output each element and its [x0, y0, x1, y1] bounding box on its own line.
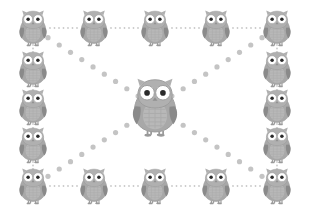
owl-glyph: [77, 167, 111, 205]
edge-dot: [189, 27, 191, 29]
edge-perimeter: [110, 185, 139, 187]
owl-network-diagram: [0, 0, 309, 214]
owl-top-2[interactable]: [138, 9, 172, 47]
edge-dot: [133, 185, 135, 187]
edge-dot: [180, 27, 182, 29]
owl-glyph: [16, 88, 50, 126]
edge-dot: [124, 27, 126, 29]
edge-perimeter: [110, 27, 139, 29]
owl-glyph: [16, 126, 50, 164]
edge-dot: [237, 50, 242, 55]
edge-dot: [226, 152, 231, 157]
edge-dot: [57, 166, 62, 171]
edge-dot: [250, 185, 252, 187]
edge-dot: [67, 185, 69, 187]
edge-dot: [54, 27, 56, 29]
edge-dot: [255, 185, 257, 187]
edge-dot: [115, 185, 117, 187]
owl-top-left[interactable]: [16, 9, 50, 47]
edge-dot: [133, 27, 135, 29]
owl-right-2[interactable]: [260, 88, 294, 126]
edge-dot: [246, 185, 248, 187]
edge-dot: [192, 130, 197, 135]
owl-glyph: [16, 50, 50, 88]
owl-left-3[interactable]: [16, 126, 50, 164]
owl-top-right[interactable]: [260, 9, 294, 47]
edge-perimeter: [232, 27, 261, 29]
edge-dot: [119, 185, 121, 187]
edge-dot: [248, 166, 253, 171]
edge-dot: [113, 79, 118, 84]
edge-dot: [63, 27, 65, 29]
edge-dot: [194, 185, 196, 187]
edge-dot: [237, 27, 239, 29]
edge-dot: [68, 50, 73, 55]
edge-dot: [79, 57, 84, 62]
edge-dot: [192, 79, 197, 84]
owl-glyph: [138, 9, 172, 47]
edge-dot: [185, 27, 187, 29]
edge-dot: [255, 27, 257, 29]
owl-bottom-2[interactable]: [138, 167, 172, 205]
owl-glyph: [127, 76, 182, 138]
edge-dot: [203, 72, 208, 77]
owl-bottom-right[interactable]: [260, 167, 294, 205]
edge-dot: [115, 27, 117, 29]
owl-glyph: [138, 167, 172, 205]
edge-dot: [246, 27, 248, 29]
edge-dot: [250, 27, 252, 29]
edge-dot: [58, 185, 60, 187]
owl-glyph: [16, 167, 50, 205]
edge-perimeter: [171, 27, 200, 29]
owl-left-1[interactable]: [16, 50, 50, 88]
edge-dot: [63, 185, 65, 187]
edge-dot: [124, 185, 126, 187]
owl-right-1[interactable]: [260, 50, 294, 88]
owl-left-2[interactable]: [16, 88, 50, 126]
owl-top-1[interactable]: [77, 9, 111, 47]
owl-glyph: [260, 9, 294, 47]
edge-dot: [180, 185, 182, 187]
owl-bottom-3[interactable]: [199, 167, 233, 205]
owl-glyph: [199, 167, 233, 205]
owl-glyph: [260, 126, 294, 164]
edge-dot: [241, 185, 243, 187]
owl-right-3[interactable]: [260, 126, 294, 164]
edge-dot: [237, 185, 239, 187]
edge-dot: [67, 27, 69, 29]
edge-dot: [241, 27, 243, 29]
owl-glyph: [77, 9, 111, 47]
owl-glyph: [199, 9, 233, 47]
edge-dot: [128, 185, 130, 187]
edge-dot: [194, 27, 196, 29]
edge-perimeter: [232, 185, 261, 187]
edge-dot: [214, 145, 219, 150]
edge-dot: [57, 42, 62, 47]
edge-dot: [102, 137, 107, 142]
edge-perimeter: [171, 185, 200, 187]
owl-glyph: [260, 50, 294, 88]
owl-center-hub[interactable]: [127, 76, 182, 138]
edge-perimeter: [49, 185, 78, 187]
edge-dot: [203, 137, 208, 142]
owl-top-3[interactable]: [199, 9, 233, 47]
edge-dot: [102, 72, 107, 77]
edge-dot: [90, 145, 95, 150]
edge-dot: [176, 185, 178, 187]
edge-dot: [68, 159, 73, 164]
edge-dot: [248, 42, 253, 47]
owl-glyph: [16, 9, 50, 47]
edge-dot: [128, 27, 130, 29]
edge-dot: [176, 27, 178, 29]
edge-dot: [58, 27, 60, 29]
owl-glyph: [260, 167, 294, 205]
owl-glyph: [260, 88, 294, 126]
edge-dot: [119, 27, 121, 29]
edge-dot: [72, 27, 74, 29]
owl-bottom-1[interactable]: [77, 167, 111, 205]
edge-dot: [189, 185, 191, 187]
edge-dot: [79, 152, 84, 157]
edge-dot: [54, 185, 56, 187]
owl-bottom-left[interactable]: [16, 167, 50, 205]
edge-perimeter: [49, 27, 78, 29]
